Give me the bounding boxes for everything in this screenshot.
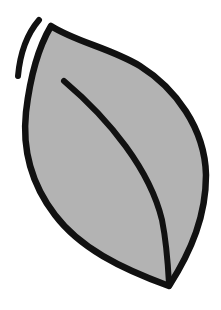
leaf-icon	[0, 0, 221, 310]
leaf-illustration: Leaf icon	[0, 0, 221, 310]
leaf-body	[25, 26, 206, 286]
